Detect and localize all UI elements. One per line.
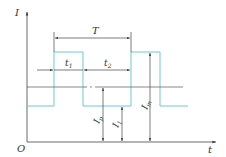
peak-current-label: Im (139, 98, 153, 112)
pulse-waveform-diagram: I t O T t1 t2 Ip I1 Im (0, 0, 226, 157)
pulse-on-label: t1 (65, 58, 72, 69)
period-label: T (92, 25, 100, 36)
pulse-off-label: t2 (104, 58, 112, 69)
y-axis-label: I (14, 7, 20, 18)
base-current-label: I1 (110, 118, 123, 130)
origin-label: O (17, 143, 25, 154)
x-axis-label: t (208, 144, 213, 155)
